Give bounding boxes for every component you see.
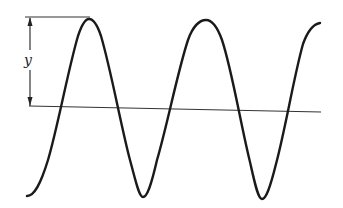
- horizontal-axis: [29, 106, 321, 112]
- arrowhead-down-icon: [28, 97, 33, 106]
- arrowhead-up-icon: [28, 17, 33, 26]
- sine-wave-diagram: y: [0, 0, 343, 208]
- diagram-canvas: y: [0, 0, 343, 208]
- amplitude-label: y: [23, 52, 33, 68]
